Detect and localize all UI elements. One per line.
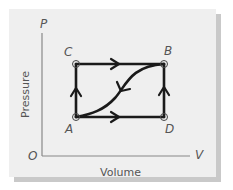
x-axis-label: Volume <box>100 166 141 179</box>
y-axis-symbol: P <box>40 17 48 31</box>
x-axis-symbol: V <box>195 148 204 162</box>
arrowheads <box>71 59 169 122</box>
point-a-label: A <box>64 122 73 136</box>
y-axis-label: Pressure <box>19 71 32 118</box>
pv-diagram: P V O Volume Pressure C B A D <box>0 0 233 190</box>
point-b-label: B <box>164 44 172 58</box>
point-d-label: D <box>165 122 174 136</box>
point-c-label: C <box>64 45 73 59</box>
origin-label: O <box>28 149 37 163</box>
